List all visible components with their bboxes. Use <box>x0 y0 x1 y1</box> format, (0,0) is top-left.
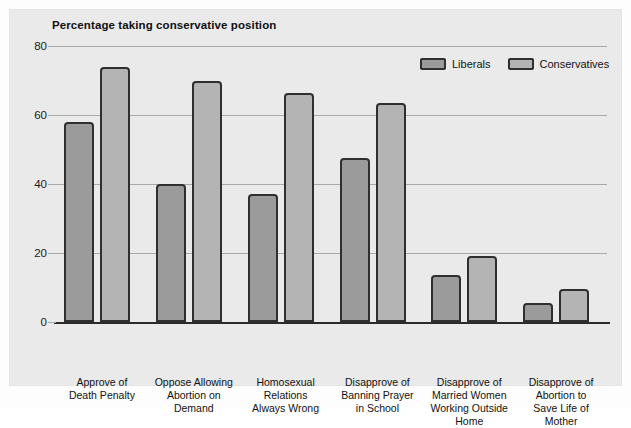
bar-group <box>240 46 332 322</box>
bar-conservatives-1 <box>100 67 130 322</box>
plot-area: 020406080Approve ofDeath PenaltyOppose A… <box>56 46 607 322</box>
y-tick-label-80: 80 <box>34 40 47 52</box>
x-axis-label-6: Disapprove ofAbortion toSave Life ofMoth… <box>509 376 613 428</box>
chart-title: Percentage taking conservative position <box>52 19 276 31</box>
bar-conservatives-4 <box>376 103 406 322</box>
x-axis-line <box>54 322 610 324</box>
x-axis-label-5: Disapprove ofMarried WomenWorking Outsid… <box>417 376 521 428</box>
bar-liberals-2 <box>156 184 186 322</box>
y-tick-label-0: 0 <box>41 316 47 328</box>
bar-conservatives-3 <box>284 93 314 322</box>
bar-group <box>423 46 515 322</box>
x-axis-label-4: Disapprove ofBanning Prayerin School <box>325 376 429 415</box>
bar-group <box>148 46 240 322</box>
y-tick-label-20: 20 <box>34 247 47 259</box>
y-tick-mark-0 <box>48 322 56 323</box>
x-axis-label-1: Approve ofDeath Penalty <box>50 376 154 402</box>
bar-conservatives-5 <box>467 256 497 322</box>
bar-liberals-6 <box>523 303 553 322</box>
bar-liberals-5 <box>431 275 461 322</box>
bar-conservatives-2 <box>192 81 222 323</box>
bar-group <box>332 46 424 322</box>
bar-conservatives-6 <box>559 289 589 322</box>
bar-liberals-3 <box>248 194 278 322</box>
y-tick-label-60: 60 <box>34 109 47 121</box>
y-tick-mark-40 <box>48 184 56 185</box>
x-axis-label-3: HomosexualRelationsAlways Wrong <box>234 376 338 415</box>
bar-liberals-1 <box>64 122 94 322</box>
y-tick-label-40: 40 <box>34 178 47 190</box>
bar-group <box>56 46 148 322</box>
bar-liberals-4 <box>340 158 370 322</box>
y-tick-mark-60 <box>48 115 56 116</box>
x-axis-label-2: Oppose AllowingAbortion onDemand <box>142 376 246 415</box>
bar-group <box>515 46 607 322</box>
y-tick-mark-80 <box>48 46 56 47</box>
y-tick-mark-20 <box>48 253 56 254</box>
